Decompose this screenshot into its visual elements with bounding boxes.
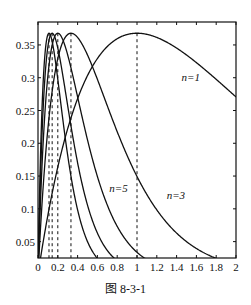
y-tick-label: 0.15 (16, 170, 36, 182)
series-labels: n=1n=3n=5 (109, 71, 200, 201)
y-tick-label: 0.1 (21, 203, 35, 215)
x-tick-label: 1.8 (209, 261, 223, 273)
x-tick-label: 0 (35, 261, 41, 273)
x-tick-label: 1 (134, 261, 140, 273)
x-tick-label: 0.6 (91, 261, 105, 273)
y-tick-label: 0.25 (16, 105, 36, 117)
x-tick-label: 0.8 (110, 261, 124, 273)
y-tick-label: 0.35 (16, 39, 36, 51)
series-label-n3: n=3 (167, 189, 186, 201)
x-tick-label: 0.4 (71, 261, 85, 273)
x-tick-label: 2 (233, 261, 239, 273)
figure-caption: 图 8-3-1 (0, 279, 251, 297)
x-tick-label: 1.6 (190, 261, 204, 273)
series-label-n1: n=1 (182, 71, 200, 83)
y-tick-label: 0.3 (21, 72, 35, 84)
series-label-n5: n=5 (109, 182, 128, 194)
x-tick-label: 1.2 (150, 261, 164, 273)
y-tick-label: 0.05 (16, 236, 36, 248)
x-tick-label: 1.4 (170, 261, 184, 273)
y-tick-label: 0.2 (21, 137, 35, 149)
chart: 00.20.40.60.811.21.41.61.82 0.050.10.150… (0, 0, 251, 305)
x-tick-label: 0.2 (51, 261, 65, 273)
